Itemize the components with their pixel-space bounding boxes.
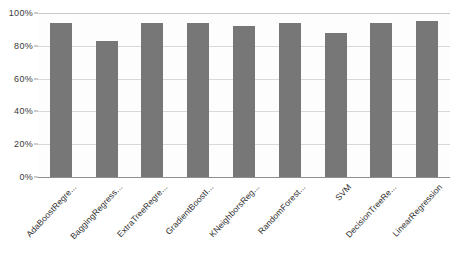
y-axis-label-60: 60% xyxy=(14,74,33,84)
y-axis-label-20: 20% xyxy=(14,139,33,149)
bar-svm xyxy=(325,33,347,177)
bar-baggingregressor xyxy=(96,41,118,177)
bar-decisiontreeregressor xyxy=(370,23,392,177)
bar-gradientboosting xyxy=(187,23,209,177)
bar-randomforest xyxy=(279,23,301,177)
x-axis-label-4: KNeighborsReg... xyxy=(207,182,261,239)
y-axis-label-0: 0% xyxy=(19,172,33,182)
y-axis-label-80: 80% xyxy=(14,41,33,51)
x-axis-labels: AdaBoostRegre... BaggingRegress... Extra… xyxy=(38,178,450,253)
x-axis-label-8: LinearRegression xyxy=(391,182,445,239)
bar-linearregression xyxy=(416,21,438,177)
x-axis-label-2: ExtraTreeRegre... xyxy=(115,182,169,239)
bars-layer xyxy=(38,13,450,177)
y-axis-label-40: 40% xyxy=(14,106,33,116)
bar-chart: 100% 80% 60% 40% 20% 0% xyxy=(0,0,458,253)
plot-area: 100% 80% 60% 40% 20% 0% xyxy=(38,13,450,177)
bar-adaboostregressor xyxy=(50,23,72,177)
bar-kneighborsregressor xyxy=(233,26,255,177)
x-axis-label-6: SVM xyxy=(333,182,353,203)
x-axis-label-3: GradientBoostI... xyxy=(164,182,216,237)
bar-extratreeregressor xyxy=(141,23,163,177)
y-axis-label-100: 100% xyxy=(9,8,33,18)
x-axis-label-5: RandomForest... xyxy=(256,182,308,236)
